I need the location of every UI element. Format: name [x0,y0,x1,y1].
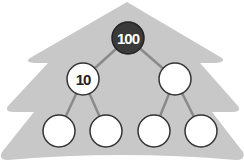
node-level2-4 [185,115,217,147]
node-level1-left-label: 10 [76,71,91,88]
node-level2-3 [138,115,170,147]
binary-tree-diagram: 100 10 [0,0,244,167]
node-level1-right [159,63,191,95]
tree-svg: 100 10 [0,0,244,167]
node-level2-1 [43,115,75,147]
node-level1-left: 10 [67,63,99,95]
root-node: 100 [112,22,144,54]
root-node-label: 100 [117,30,140,47]
node-level2-2 [90,115,122,147]
